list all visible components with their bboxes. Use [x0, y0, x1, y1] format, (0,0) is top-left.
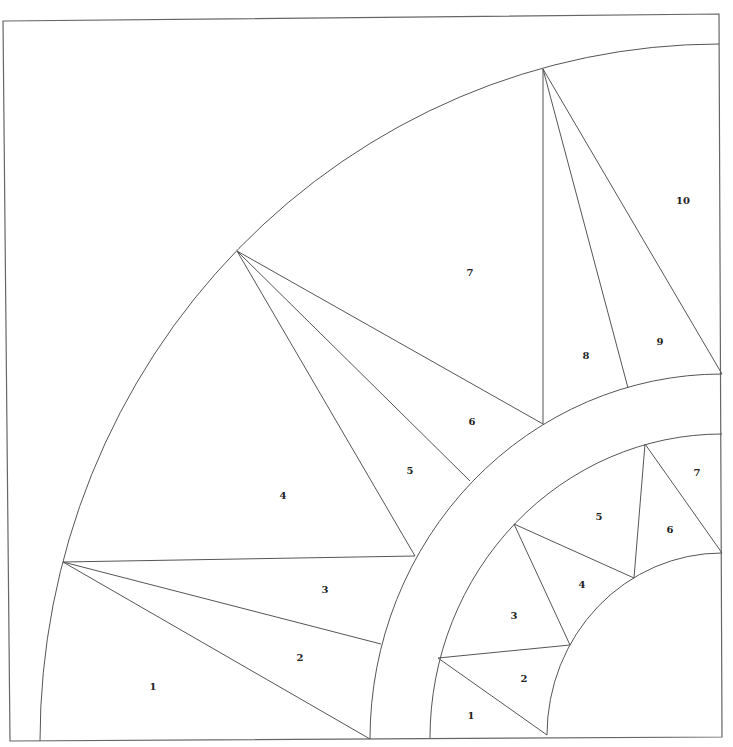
outer-piece-label-3: 3 — [322, 584, 329, 595]
outer-piece-label-9: 9 — [657, 336, 664, 347]
outer-piece-label-4: 4 — [280, 490, 287, 501]
outer-piece-label-7: 7 — [467, 267, 474, 278]
band-outer-arc — [370, 374, 722, 739]
outer-piece-label-6: 6 — [469, 416, 476, 427]
outer-arc — [40, 44, 719, 741]
inner-star-lines — [438, 444, 722, 735]
outer-star-lines — [63, 69, 722, 739]
inner-piece-label-2: 2 — [521, 673, 528, 684]
inner-piece-label-4: 4 — [579, 579, 586, 590]
outer-piece-label-2: 2 — [297, 652, 304, 663]
block-frame — [3, 14, 722, 741]
outer-piece-label-10: 10 — [676, 195, 690, 206]
outer-piece-label-1: 1 — [150, 681, 157, 692]
inner-piece-label-5: 5 — [596, 511, 603, 522]
inner-piece-label-1: 1 — [468, 710, 475, 721]
inner-piece-label-3: 3 — [511, 610, 518, 621]
inner-piece-label-7: 7 — [694, 467, 701, 478]
center-arc — [547, 553, 722, 735]
quilt-pattern-drawing — [0, 0, 733, 747]
inner-piece-label-6: 6 — [667, 524, 674, 535]
outer-piece-label-8: 8 — [583, 350, 590, 361]
outer-piece-label-5: 5 — [407, 465, 414, 476]
